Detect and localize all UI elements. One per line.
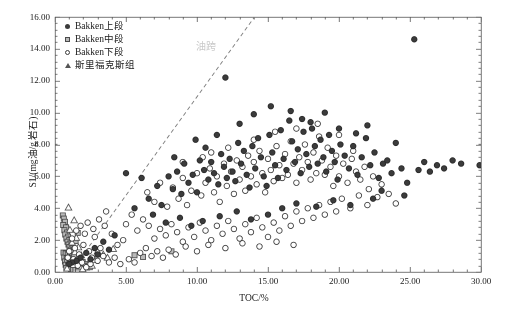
y-tick-label: 4.00 — [16, 203, 50, 213]
x-tick-label: 10.00 — [177, 276, 217, 286]
legend-item-bakken-lower: Bakken下段 — [61, 46, 135, 59]
x-tick-label: 5.00 — [106, 276, 146, 286]
legend-label: Bakken中段 — [74, 33, 124, 46]
x-tick-label: 30.00 — [461, 276, 501, 286]
oil-crossover-annotation: 油跨 — [196, 38, 216, 53]
legend-label: 斯里福克斯组 — [74, 59, 135, 72]
legend-label: Bakken上段 — [74, 20, 124, 33]
y-tick-label: 12.00 — [16, 75, 50, 85]
legend-item-bakken-middle: Bakken中段 — [61, 33, 135, 46]
legend-label: Bakken下段 — [74, 46, 124, 59]
x-tick-label: 20.00 — [319, 276, 359, 286]
square-icon — [61, 37, 74, 42]
y-tick-label: 2.00 — [16, 235, 50, 245]
x-tick-label: 15.00 — [248, 276, 288, 286]
legend-item-three-forks: 斯里福克斯组 — [61, 59, 135, 72]
x-tick-label: 0.00 — [35, 276, 75, 286]
y-tick-label: 14.00 — [16, 43, 50, 53]
open-circle-icon — [61, 50, 74, 55]
x-axis-title: TOC/% — [0, 293, 508, 303]
triangle-icon — [61, 63, 74, 68]
filled-circle-icon — [61, 24, 74, 29]
y-tick-label: 10.00 — [16, 107, 50, 117]
scatter-plot-figure: S1/(mg油/g 岩石) TOC/% 16.00 14.00 12.00 10… — [0, 0, 508, 322]
y-tick-label: 16.00 — [16, 12, 50, 22]
x-tick-label: 25.00 — [390, 276, 430, 286]
y-tick-label: 8.00 — [16, 139, 50, 149]
legend: Bakken上段 Bakken中段 Bakken下段 斯里福克斯组 — [61, 20, 135, 72]
legend-item-bakken-upper: Bakken上段 — [61, 20, 135, 33]
y-tick-label: 6.00 — [16, 171, 50, 181]
